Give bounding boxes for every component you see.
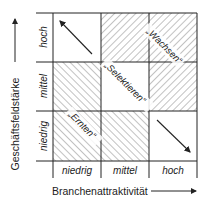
- x-axis-label: Branchenattraktivität: [52, 185, 148, 197]
- x-tick-niedrig: niedrig: [62, 165, 92, 176]
- cell-mittel-hoch: [149, 62, 197, 111]
- portfolio-matrix: „Wachsen“ „Selektieren“ „Ernten“ hoch mi…: [0, 0, 207, 205]
- cell-mittel-niedrig: [53, 62, 101, 111]
- y-tick-niedrig: niedrig: [38, 121, 49, 151]
- x-tick-mittel: mittel: [113, 165, 138, 176]
- cell-hoch-mittel: [101, 13, 149, 62]
- cell-niedrig-mittel: [101, 111, 149, 161]
- x-tick-hoch: hoch: [162, 165, 184, 176]
- cell-hoch-niedrig: [53, 13, 101, 62]
- y-tick-hoch: hoch: [38, 26, 49, 48]
- y-axis-label: Geschäftsfeldstärke: [9, 77, 21, 170]
- y-tick-mittel: mittel: [38, 73, 49, 98]
